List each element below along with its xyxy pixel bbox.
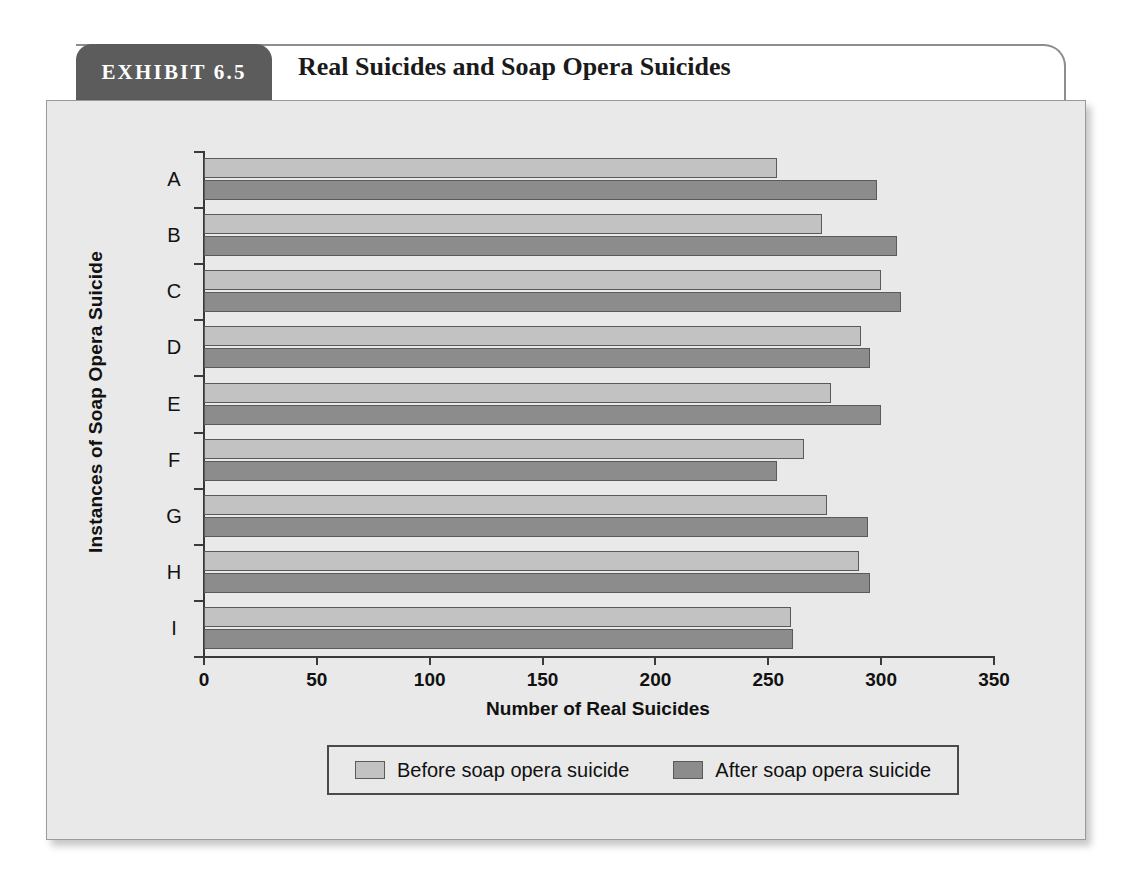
y-category-label: F xyxy=(157,448,191,471)
y-tick-mark xyxy=(194,151,203,153)
bar-after-H xyxy=(204,573,870,593)
bar-after-E xyxy=(204,405,881,425)
y-category-label: D xyxy=(157,336,191,359)
x-tick-label: 200 xyxy=(620,669,690,691)
chart-legend: Before soap opera suicide After soap ope… xyxy=(327,745,959,795)
bar-before-E xyxy=(204,383,831,403)
bar-before-A xyxy=(204,158,777,178)
y-tick-mark xyxy=(194,488,203,490)
legend-item-after: After soap opera suicide xyxy=(673,759,931,782)
x-tick-label: 50 xyxy=(282,669,352,691)
x-tick-mark xyxy=(316,656,318,665)
x-tick-mark xyxy=(203,656,205,665)
bar-before-H xyxy=(204,551,859,571)
y-tick-mark xyxy=(194,432,203,434)
chart-panel: Instances of Soap Opera Suicide Number o… xyxy=(46,100,1086,840)
x-tick-mark xyxy=(429,656,431,665)
y-tick-mark xyxy=(194,263,203,265)
y-category-label: H xyxy=(157,560,191,583)
x-tick-mark xyxy=(654,656,656,665)
x-axis-title: Number of Real Suicides xyxy=(203,698,993,720)
bar-before-F xyxy=(204,439,804,459)
y-tick-mark xyxy=(194,600,203,602)
bar-before-D xyxy=(204,326,861,346)
bar-after-A xyxy=(204,180,877,200)
x-tick-label: 250 xyxy=(733,669,803,691)
x-axis-line xyxy=(203,656,994,658)
x-tick-label: 100 xyxy=(395,669,465,691)
y-tick-mark xyxy=(194,375,203,377)
y-tick-mark xyxy=(194,319,203,321)
bar-before-B xyxy=(204,214,822,234)
bar-after-B xyxy=(204,236,897,256)
legend-swatch-before-icon xyxy=(355,761,385,779)
y-category-label: G xyxy=(157,504,191,527)
y-tick-mark xyxy=(194,544,203,546)
legend-label-after: After soap opera suicide xyxy=(715,759,931,782)
bar-before-G xyxy=(204,495,827,515)
x-tick-label: 350 xyxy=(959,669,1029,691)
y-category-label: B xyxy=(157,224,191,247)
x-tick-mark xyxy=(542,656,544,665)
exhibit-number-label: EXHIBIT 6.5 xyxy=(101,60,246,85)
y-tick-mark xyxy=(194,656,203,658)
y-tick-mark xyxy=(194,207,203,209)
x-tick-label: 300 xyxy=(846,669,916,691)
bar-after-F xyxy=(204,461,777,481)
bar-before-I xyxy=(204,607,791,627)
exhibit-title: Real Suicides and Soap Opera Suicides xyxy=(298,52,731,82)
x-tick-mark xyxy=(993,656,995,665)
x-tick-mark xyxy=(880,656,882,665)
legend-swatch-after-icon xyxy=(673,761,703,779)
y-category-label: C xyxy=(157,280,191,303)
legend-item-before: Before soap opera suicide xyxy=(355,759,629,782)
legend-label-before: Before soap opera suicide xyxy=(397,759,629,782)
bar-after-C xyxy=(204,292,901,312)
y-category-label: A xyxy=(157,168,191,191)
y-category-label: I xyxy=(157,616,191,639)
exhibit-number-badge: EXHIBIT 6.5 xyxy=(76,44,272,100)
bar-after-G xyxy=(204,517,868,537)
y-category-label: E xyxy=(157,392,191,415)
x-tick-mark xyxy=(767,656,769,665)
bar-after-I xyxy=(204,629,793,649)
x-tick-label: 0 xyxy=(169,669,239,691)
bar-after-D xyxy=(204,348,870,368)
x-tick-label: 150 xyxy=(508,669,578,691)
plot-area: 050100150200250300350 ABCDEFGHI xyxy=(203,151,993,656)
bar-before-C xyxy=(204,270,881,290)
y-axis-title: Instances of Soap Opera Suicide xyxy=(85,167,107,637)
